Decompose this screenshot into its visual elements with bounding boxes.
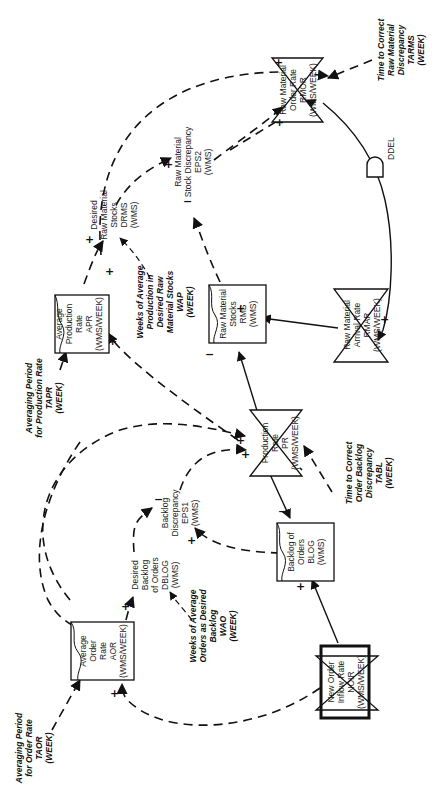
svg-text:RMAR: RMAR: [362, 312, 372, 337]
svg-text:(WMS): (WMS): [190, 500, 200, 527]
svg-text:+: +: [296, 580, 305, 593]
svg-text:Arrival Rate: Arrival Rate: [352, 303, 362, 348]
link-noir-to-aor: [122, 684, 320, 725]
svg-text:(WMS): (WMS): [248, 301, 258, 328]
svg-text:Order Backlog: Order Backlog: [354, 443, 364, 502]
link-taor-to-aor: [52, 680, 80, 730]
label-drms: Desired Raw Material Stocks DRMS (WMS): [89, 190, 139, 240]
svg-text:+: +: [241, 448, 250, 461]
svg-text:(WEEK): (WEEK): [185, 286, 195, 317]
svg-text:Backlog: Backlog: [208, 609, 218, 643]
svg-text:+: +: [236, 434, 245, 447]
svg-text:+: +: [380, 313, 389, 326]
svg-text:Rate: Rate: [270, 434, 280, 452]
svg-text:(WMS/WEEK): (WMS/WEEK): [290, 416, 300, 470]
svg-text:Material Stocks: Material Stocks: [165, 271, 175, 334]
svg-text:DRMS: DRMS: [119, 202, 129, 227]
delay-icon: [367, 157, 383, 177]
label-eps1: Backlog Discrepancy EPS1 (WMS): [160, 489, 200, 537]
svg-text:(WMS/WEEK): (WMS/WEEK): [94, 297, 104, 351]
svg-text:+: +: [275, 116, 284, 129]
svg-text:WAO: WAO: [218, 615, 228, 636]
svg-text:−: −: [183, 195, 192, 208]
label-wap: Weeks of Average Production in Desired R…: [135, 265, 195, 338]
svg-text:+: +: [105, 265, 114, 278]
svg-text:AOR: AOR: [108, 642, 118, 660]
svg-text:+: +: [274, 56, 283, 69]
svg-text:Orders as Desired: Orders as Desired: [198, 589, 208, 663]
link-eps2-to-rmor: [214, 107, 283, 160]
link-dblog-to-eps1: [133, 508, 152, 552]
svg-text:Raw Material: Raw Material: [218, 289, 228, 339]
svg-text:Production: Production: [64, 303, 74, 344]
delay-label: DDEL: [386, 137, 396, 160]
svg-text:NOIR: NOIR: [346, 671, 356, 692]
link-eps1-to-pr: [180, 450, 246, 490]
svg-text:Averaging Period: Averaging Period: [24, 362, 34, 434]
label-dblog: Desired Backlog of Orders DBLOG (WMS): [130, 557, 180, 592]
svg-text:BLOG: BLOG: [306, 540, 316, 564]
svg-text:+: +: [164, 158, 173, 171]
svg-text:Orders: Orders: [296, 539, 306, 565]
svg-text:+: +: [108, 335, 117, 348]
stock-flow-diagram: DDEL Average Production Rate APR (WMS/WE…: [0, 0, 433, 802]
link-tabl-to-pr: [300, 468, 302, 470]
svg-text:Discrepancy: Discrepancy: [396, 23, 406, 75]
svg-text:Rate: Rate: [74, 315, 84, 333]
svg-text:(WEEK): (WEEK): [54, 382, 64, 413]
svg-text:TABL: TABL: [374, 462, 384, 484]
svg-text:(WMS/WEEK): (WMS/WEEK): [118, 624, 128, 678]
flow-rmar-to-rms: [262, 318, 338, 328]
svg-text:(WMS): (WMS): [203, 149, 213, 176]
svg-text:for Order Rate: for Order Rate: [24, 719, 34, 777]
svg-text:+: +: [85, 233, 94, 246]
label-wao: Weeks of Average Orders as Desired Backl…: [188, 589, 238, 663]
svg-text:(WMS): (WMS): [316, 539, 326, 566]
svg-text:EPS2: EPS2: [193, 151, 203, 173]
svg-text:of Orders: of Orders: [150, 557, 160, 592]
flow-pr-to-rms: [239, 352, 258, 414]
label-tarms: Time to Correct Raw Material Discrepancy…: [376, 18, 426, 82]
svg-text:(WEEK): (WEEK): [416, 34, 426, 65]
svg-text:Average: Average: [54, 308, 64, 340]
svg-text:Time to Correct: Time to Correct: [376, 18, 386, 82]
svg-text:Desired Raw: Desired Raw: [155, 275, 165, 327]
svg-text:−: −: [205, 348, 214, 361]
svg-text:Inflow Rate: Inflow Rate: [336, 660, 346, 703]
link-pr-to-aor-loop: [39, 442, 80, 625]
svg-text:−: −: [154, 493, 163, 506]
svg-text:Averaging Period: Averaging Period: [14, 712, 24, 784]
svg-text:Average: Average: [78, 635, 88, 667]
link-tarms-to-rmor: [328, 60, 372, 78]
link-pr-to-apr: [108, 333, 238, 440]
svg-text:(WMS/WEEK): (WMS/WEEK): [308, 63, 318, 117]
svg-text:Time to Correct: Time to Correct: [344, 441, 354, 505]
svg-text:Desired: Desired: [130, 560, 140, 590]
svg-text:WAP: WAP: [175, 292, 185, 312]
svg-text:RMOR: RMOR: [298, 77, 308, 103]
label-taor: Averaging Period for Order Rate TAOR (WE…: [14, 712, 54, 784]
svg-text:(WEEK): (WEEK): [384, 457, 394, 488]
svg-text:Raw Material: Raw Material: [342, 300, 352, 350]
link-tabl-to-pr-b: [304, 446, 332, 492]
link-rms-to-eps2: [194, 218, 220, 282]
svg-text:(WMS/WEEK): (WMS/WEEK): [356, 655, 366, 709]
svg-text:TAOR: TAOR: [34, 735, 44, 759]
svg-text:TAPR: TAPR: [44, 386, 54, 409]
svg-text:Raw Material: Raw Material: [173, 137, 183, 187]
svg-text:Production: Production: [260, 422, 270, 463]
svg-text:Weeks of Average: Weeks of Average: [135, 265, 145, 338]
svg-text:APR: APR: [84, 315, 94, 332]
svg-text:Raw Material: Raw Material: [386, 23, 396, 76]
svg-text:−: −: [278, 505, 287, 518]
svg-text:Backlog: Backlog: [140, 560, 150, 591]
svg-text:Backlog of: Backlog of: [286, 532, 296, 572]
svg-text:+: +: [187, 534, 196, 547]
flow-noir-to-blog: [312, 580, 338, 643]
svg-text:(WMS): (WMS): [129, 202, 139, 229]
svg-text:(WMS): (WMS): [170, 562, 180, 589]
svg-text:Discrepancy: Discrepancy: [170, 489, 180, 537]
svg-text:Order: Order: [88, 640, 98, 662]
svg-text:Rate: Rate: [98, 642, 108, 660]
link-drms-to-eps2: [116, 158, 171, 205]
